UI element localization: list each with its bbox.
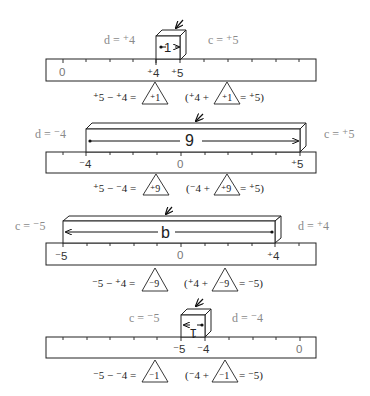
check-open: (⁺4 + — [185, 91, 209, 104]
answer-value: ⁻1 — [149, 370, 159, 381]
ruler: ⁻5 ⁻4 0 — [46, 337, 316, 358]
check-close: = ⁺5) — [240, 91, 264, 104]
check-open: (⁻4 + — [185, 369, 209, 382]
diagram-1: 0 ⁺4 ⁺5 1 d = ⁺4 c = ⁺5 ⁺5 − ⁺4 = ⁺1 (⁺4… — [46, 20, 316, 104]
check-answer: ⁺1 — [222, 92, 232, 103]
answer-value: ⁻9 — [149, 278, 159, 289]
check-close: = ⁺5) — [240, 182, 264, 195]
c-label: c = ⁻5 — [15, 219, 45, 233]
ruler-label: 0 — [59, 66, 65, 78]
ruler-label: ⁺5 — [171, 67, 183, 79]
ruler-label: 0 — [177, 158, 183, 170]
pointer-arrow-icon — [176, 20, 183, 28]
diagram-3: ⁻5 0 ⁺4 b c = ⁻5 d = ⁺4 ⁻5 − ⁺4 = ⁻9 (⁺4… — [15, 207, 329, 291]
c-label: c = ⁻5 — [129, 311, 159, 325]
ruler: ⁻4 0 ⁺5 — [46, 152, 316, 173]
equation-lhs: ⁻5 − ⁻4 = — [93, 369, 136, 381]
check-answer: ⁻1 — [219, 370, 229, 381]
ruler-label: ⁺4 — [267, 250, 280, 262]
equation: ⁻5 − ⁻4 = ⁻1 (⁻4 + ⁻1 = ⁻5) — [93, 360, 263, 382]
equation-lhs: ⁺5 − ⁺4 = — [93, 91, 136, 103]
d-label: d = ⁺4 — [298, 219, 329, 233]
check-answer: ⁻9 — [219, 278, 229, 289]
equation-lhs: ⁻5 − ⁺4 = — [92, 277, 135, 289]
pointer-arrow-icon — [166, 207, 172, 214]
answer-value: ⁺9 — [150, 183, 160, 194]
ruler-label: ⁺4 — [147, 67, 160, 79]
ruler-label: ⁻5 — [55, 250, 67, 262]
length-label-mirrored: 1 — [190, 326, 197, 341]
ruler-label: ⁻5 — [173, 343, 185, 355]
equation: ⁻5 − ⁺4 = ⁻9 (⁺4 + ⁻9 = ⁻5) — [92, 268, 263, 291]
ruler-label: ⁻4 — [197, 343, 210, 355]
equation-lhs: ⁺5 − ⁻4 = — [93, 182, 136, 194]
length-label: b — [161, 224, 170, 241]
d-label: d = ⁺4 — [104, 33, 135, 47]
c-label: c = ⁺5 — [208, 33, 238, 47]
pointer-arrow-icon — [196, 114, 203, 121]
d-label: d = ⁻4 — [35, 127, 66, 141]
ruler-label: ⁻4 — [79, 158, 92, 170]
d-label: d = ⁻4 — [232, 311, 263, 325]
ruler-label: ⁺5 — [291, 158, 303, 170]
ruler-label: 0 — [177, 249, 183, 261]
pointer-arrow-icon — [196, 299, 203, 306]
ruler: ⁻5 0 ⁺4 — [46, 243, 316, 265]
length-bar — [86, 123, 306, 152]
length-label: 1 — [164, 40, 171, 55]
length-label: 1 — [190, 326, 197, 341]
ruler-label: 0 — [296, 343, 302, 355]
check-open: (⁻4 + — [186, 182, 210, 195]
check-close: = ⁻5) — [239, 369, 263, 382]
check-answer: ⁺9 — [221, 183, 231, 194]
c-label: c = ⁺5 — [324, 127, 354, 141]
diagram-4: ⁻5 ⁻4 0 1 c = ⁻5 d = ⁻4 ⁻5 − ⁻4 = ⁻1 (⁻4… — [46, 299, 316, 382]
check-close: = ⁻5) — [239, 277, 263, 290]
equation: ⁺5 − ⁺4 = ⁺1 (⁺4 + ⁺1 = ⁺5) — [93, 82, 264, 104]
check-open: (⁺4 + — [184, 277, 208, 290]
length-label: 9 — [185, 132, 194, 149]
answer-value: ⁺1 — [150, 92, 160, 103]
diagram-2: ⁻4 0 ⁺5 9 d = ⁻4 c = ⁺5 ⁺5 − ⁻4 = ⁺9 (⁻4… — [35, 114, 354, 195]
length-bar — [63, 216, 281, 243]
ruler: 0 ⁺4 ⁺5 — [46, 59, 316, 81]
number-line-subtraction-diagrams: 0 ⁺4 ⁺5 1 d = ⁺4 c = ⁺5 ⁺5 − ⁺4 = ⁺1 (⁺4… — [0, 0, 370, 396]
equation: ⁺5 − ⁻4 = ⁺9 (⁻4 + ⁺9 = ⁺5) — [93, 174, 264, 195]
